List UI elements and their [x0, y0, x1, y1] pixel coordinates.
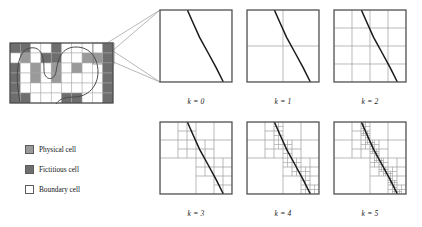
refinement-panel-k5 [334, 122, 406, 194]
grid-cell [10, 43, 20, 53]
legend-swatch-fictitious [25, 165, 34, 174]
legend-item-boundary: Boundary cell [25, 185, 80, 194]
grid-cell [103, 73, 113, 83]
grid-cell [72, 53, 82, 63]
grid-cell [82, 53, 92, 63]
grid-cell [72, 63, 82, 73]
legend-label-fictitious: Fictitious cell [39, 166, 79, 173]
grid-cell [62, 63, 72, 73]
refinement-panel-k0 [160, 10, 232, 82]
grid-cell [82, 83, 92, 93]
grid-cell [62, 73, 72, 83]
grid-cell [82, 63, 92, 73]
grid-cell [103, 83, 113, 93]
legend-label-physical: Physical cell [39, 146, 76, 153]
grid-cell [72, 83, 82, 93]
grid-cell [20, 63, 30, 73]
grid-cell [92, 83, 102, 93]
grid-cell [31, 63, 41, 73]
grid-cell [92, 53, 102, 63]
grid-cell [10, 73, 20, 83]
grid-cell [62, 53, 72, 63]
grid-cell [103, 43, 113, 53]
grid-cell [62, 83, 72, 93]
grid-cell [51, 43, 61, 53]
grid-cell [103, 53, 113, 63]
grid-cell [82, 73, 92, 83]
grid-cell [72, 93, 82, 103]
grid-cell [41, 43, 51, 53]
legend-label-boundary: Boundary cell [39, 186, 80, 193]
panel-label-k5: k = 5 [334, 209, 406, 218]
grid-cell [20, 93, 30, 103]
grid-cell [20, 83, 30, 93]
panel-label-k4: k = 4 [247, 209, 319, 218]
panel-label-k1: k = 1 [247, 97, 319, 106]
legend-swatch-physical [25, 145, 34, 154]
legend-swatch-boundary [25, 185, 34, 194]
grid-cell [31, 53, 41, 63]
grid-cell [92, 93, 102, 103]
refinement-panel-k1 [247, 10, 319, 82]
grid-cell [51, 83, 61, 93]
legend-item-physical: Physical cell [25, 145, 76, 154]
grid-cell [41, 93, 51, 103]
panel-label-k3: k = 3 [160, 209, 232, 218]
grid-cell [31, 93, 41, 103]
grid-cell [103, 93, 113, 103]
grid-cell [41, 73, 51, 83]
grid-cell [92, 43, 102, 53]
legend-item-fictitious: Fictitious cell [25, 165, 79, 174]
grid-cell [41, 63, 51, 73]
refinement-panel-k2 [334, 10, 406, 82]
grid-cell [10, 83, 20, 93]
grid-cell [72, 73, 82, 83]
grid-cell [31, 73, 41, 83]
grid-cell [31, 83, 41, 93]
panel-label-k0: k = 0 [160, 97, 232, 106]
grid-cell [51, 93, 61, 103]
grid-cell [72, 43, 82, 53]
grid-cell [82, 93, 92, 103]
grid-cell [20, 73, 30, 83]
refinement-panel-k3 [160, 122, 232, 194]
grid-cell [41, 83, 51, 93]
grid-cell [103, 63, 113, 73]
panel-label-k2: k = 2 [334, 97, 406, 106]
refinement-panel-k4 [247, 122, 319, 194]
panel-background [160, 10, 232, 82]
